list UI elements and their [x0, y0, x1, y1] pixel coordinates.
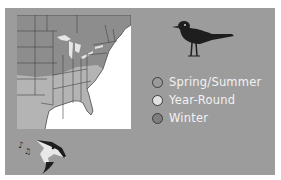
- singing-bird-head-icon: ♪ ♫: [16, 136, 72, 176]
- legend-item-spring-summer: Spring/Summer: [152, 74, 261, 90]
- year-round-swatch-icon: [152, 95, 163, 106]
- legend-label: Winter: [169, 111, 208, 125]
- spring-summer-swatch-icon: [152, 77, 163, 88]
- legend-item-year-round: Year-Round: [152, 92, 261, 108]
- legend-label: Spring/Summer: [169, 75, 261, 89]
- winter-swatch-icon: [152, 113, 163, 124]
- svg-text:♫: ♫: [24, 147, 31, 156]
- bird-silhouette-icon: [172, 18, 238, 64]
- svg-text:♪: ♪: [18, 140, 24, 150]
- us-east-map-icon: [17, 15, 131, 129]
- range-legend: Spring/Summer Year-Round Winter: [152, 74, 261, 128]
- legend-label: Year-Round: [169, 93, 235, 107]
- range-map: [17, 15, 131, 129]
- legend-item-winter: Winter: [152, 110, 261, 126]
